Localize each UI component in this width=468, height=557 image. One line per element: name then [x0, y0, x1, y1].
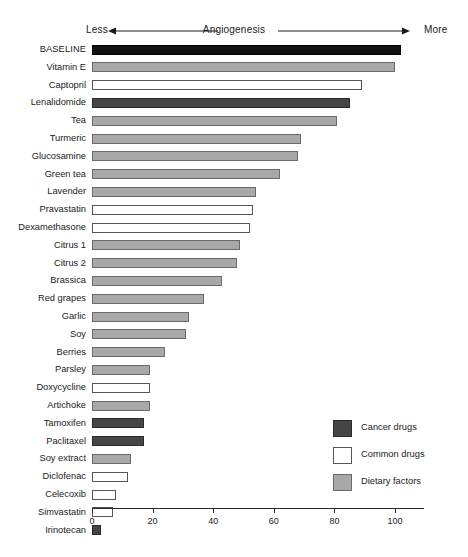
x-axis-tick-label: 60	[269, 516, 279, 526]
bar-cancer	[92, 98, 350, 108]
bar-dietary	[92, 294, 204, 304]
bar-cancer	[92, 436, 144, 446]
bar-row: Berries	[0, 347, 468, 365]
bar-category-label: Berries	[0, 347, 86, 358]
x-axis-tick-label: 100	[387, 516, 402, 526]
x-axis-tick-label: 80	[329, 516, 339, 526]
bar-category-label: Soy extract	[0, 453, 86, 464]
bar-row: Red grapes	[0, 293, 468, 311]
bar-row: Green tea	[0, 169, 468, 187]
legend-label-cancer: Cancer drugs	[361, 422, 417, 432]
bar-row: Citrus 2	[0, 258, 468, 276]
bar-category-label: Lenalidomide	[0, 97, 86, 108]
x-axis-line	[92, 508, 424, 509]
bar-row: Dexamethasone	[0, 222, 468, 240]
bar-dietary	[92, 258, 237, 268]
bar-dietary	[92, 187, 256, 197]
x-axis-tick-label: 0	[89, 516, 94, 526]
bar-row: Turmeric	[0, 133, 468, 151]
bar-dietary	[92, 347, 165, 357]
bar-category-label: Captopril	[0, 80, 86, 91]
bar-category-label: Pravastatin	[0, 204, 86, 215]
bar-dietary	[92, 240, 240, 250]
x-axis-tick-label: 40	[208, 516, 218, 526]
bar-category-label: Dexamethasone	[0, 222, 86, 233]
legend-item-dietary: Dietary factors	[333, 472, 463, 499]
bar-row: Garlic	[0, 311, 468, 329]
legend-label-common: Common drugs	[361, 449, 425, 459]
bar-category-label: Artichoke	[0, 400, 86, 411]
bar-dietary	[92, 276, 222, 286]
bar-dietary	[92, 329, 186, 339]
bar-row: Artichoke	[0, 400, 468, 418]
bar-category-label: Vitamin E	[0, 62, 86, 73]
bar-row: Captopril	[0, 80, 468, 98]
bar-dietary	[92, 454, 131, 464]
legend-item-cancer: Cancer drugs	[333, 418, 463, 445]
legend-item-common: Common drugs	[333, 445, 463, 472]
bar-row: Doxycycline	[0, 382, 468, 400]
legend-swatch-dietary	[333, 474, 352, 491]
bar-common	[92, 472, 128, 482]
bar-common	[92, 223, 250, 233]
x-axis-tick	[274, 508, 275, 513]
bar-dietary	[92, 134, 301, 144]
bar-category-label: Turmeric	[0, 133, 86, 144]
bar-dietary	[92, 365, 150, 375]
x-axis-tick	[92, 508, 93, 513]
bar-baseline	[92, 45, 401, 55]
x-axis-tick	[153, 508, 154, 513]
bar-row: Lenalidomide	[0, 97, 468, 115]
bar-category-label: Parsley	[0, 364, 86, 375]
bar-common	[92, 205, 253, 215]
x-axis-tick-label: 20	[148, 516, 158, 526]
bar-dietary	[92, 401, 150, 411]
bar-row: Soy	[0, 329, 468, 347]
bar-category-label: Glucosamine	[0, 151, 86, 162]
bar-category-label: BASELINE	[0, 44, 86, 55]
bar-category-label: Red grapes	[0, 293, 86, 304]
bar-category-label: Diclofenac	[0, 471, 86, 482]
bar-category-label: Celecoxib	[0, 489, 86, 500]
legend-label-dietary: Dietary factors	[361, 476, 421, 486]
bar-row: BASELINE	[0, 44, 468, 62]
bar-common	[92, 383, 150, 393]
bar-row: Brassica	[0, 275, 468, 293]
bar-category-label: Green tea	[0, 169, 86, 180]
bar-category-label: Citrus 2	[0, 258, 86, 269]
x-axis: 020406080100	[0, 508, 468, 548]
legend-swatch-cancer	[333, 420, 352, 437]
bar-common	[92, 490, 116, 500]
bar-category-label: Tea	[0, 115, 86, 126]
bar-category-label: Soy	[0, 329, 86, 340]
angiogenesis-bar-chart: Less Angiogenesis More BASELINEVitamin E…	[0, 0, 468, 557]
legend-swatch-common	[333, 447, 352, 464]
x-axis-tick	[213, 508, 214, 513]
bar-category-label: Paclitaxel	[0, 436, 86, 447]
bar-category-label: Doxycycline	[0, 382, 86, 393]
bar-row: Pravastatin	[0, 204, 468, 222]
x-axis-tick	[334, 508, 335, 513]
bar-dietary	[92, 116, 337, 126]
bar-row: Parsley	[0, 364, 468, 382]
bar-row: Citrus 1	[0, 240, 468, 258]
bar-category-label: Citrus 1	[0, 240, 86, 251]
bar-category-label: Brassica	[0, 275, 86, 286]
axis-direction-more-label: More	[424, 24, 448, 35]
bar-row: Tea	[0, 115, 468, 133]
bar-category-label: Tamoxifen	[0, 418, 86, 429]
bar-dietary	[92, 151, 298, 161]
bar-category-label: Garlic	[0, 311, 86, 322]
bar-row: Lavender	[0, 186, 468, 204]
bar-dietary	[92, 62, 395, 72]
x-axis-tick	[395, 508, 396, 513]
axis-direction-row: Less Angiogenesis More	[0, 18, 468, 44]
bar-row: Vitamin E	[0, 62, 468, 80]
bar-common	[92, 80, 362, 90]
axis-direction-center-label: Angiogenesis	[0, 24, 468, 35]
bar-category-label: Lavender	[0, 186, 86, 197]
bar-dietary	[92, 312, 189, 322]
bar-cancer	[92, 418, 144, 428]
legend: Cancer drugsCommon drugsDietary factors	[333, 418, 463, 499]
bar-dietary	[92, 169, 280, 179]
